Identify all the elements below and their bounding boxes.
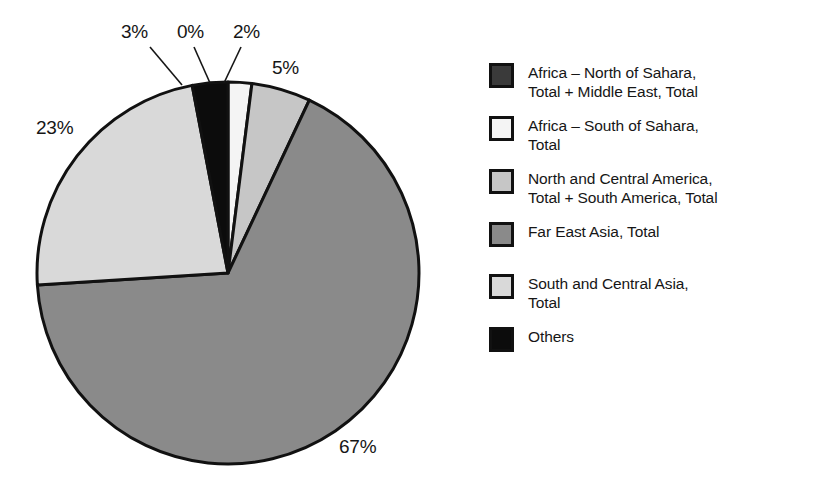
legend-label: North and Central America, Total + South… — [528, 168, 717, 207]
legend-swatch — [489, 274, 514, 299]
slice-label-americas: 5% — [272, 58, 299, 77]
legend-item-far-east-asia[interactable]: Far East Asia, Total — [489, 221, 814, 247]
legend-item-africa-north[interactable]: Africa – North of Sahara, Total + Middle… — [489, 62, 814, 101]
legend-swatch — [489, 222, 514, 247]
chart-canvas: 3%0%2%5%23%67% Africa – North of Sahara,… — [0, 0, 821, 484]
slice-label-south-central-asia: 23% — [36, 118, 73, 137]
leader-line — [224, 47, 241, 83]
legend-swatch — [489, 169, 514, 194]
slice-label-far-east-asia: 67% — [339, 437, 376, 456]
slice-label-africa-north: 0% — [177, 22, 204, 41]
slice-label-africa-south: 2% — [233, 22, 260, 41]
legend-label: Africa – North of Sahara, Total + Middle… — [528, 62, 698, 101]
legend-label: Far East Asia, Total — [528, 221, 659, 241]
legend-label: Others — [528, 326, 574, 346]
legend-item-others[interactable]: Others — [489, 326, 814, 352]
slice-label-others: 3% — [121, 22, 148, 41]
legend-swatch — [489, 327, 514, 352]
pie-chart: 3%0%2%5%23%67% — [0, 0, 470, 484]
legend-item-south-central-asia[interactable]: South and Central Asia, Total — [489, 273, 814, 312]
pie-chart-svg — [0, 0, 470, 484]
legend-label: Africa – South of Sahara, Total — [528, 115, 699, 154]
legend-swatch — [489, 116, 514, 141]
chart-legend: Africa – North of Sahara, Total + Middle… — [489, 62, 814, 352]
pie-slice-group — [37, 82, 419, 464]
legend-label: South and Central Asia, Total — [528, 273, 689, 312]
leader-line — [150, 47, 182, 85]
legend-swatch — [489, 63, 514, 88]
leader-line — [194, 47, 210, 83]
legend-item-americas[interactable]: North and Central America, Total + South… — [489, 168, 814, 207]
legend-item-africa-south[interactable]: Africa – South of Sahara, Total — [489, 115, 814, 154]
leader-line-group — [150, 47, 241, 85]
